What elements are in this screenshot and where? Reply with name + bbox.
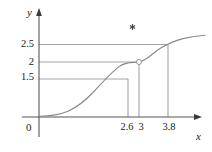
x-tick-label-3: 3 <box>131 121 151 132</box>
x-tick-label-3-8: 3.8 <box>154 121 184 132</box>
graph-figure: y x 0 2.5 2 1.5 2.6 3 3.8 <box>0 0 212 152</box>
y-axis-arrow-icon <box>36 8 42 16</box>
y-tick-label-2: 2 <box>6 56 34 67</box>
sigmoid-curve <box>39 35 205 116</box>
open-circle-point-marker <box>137 60 142 65</box>
origin-label: 0 <box>26 121 32 133</box>
asterisk-mark-icon <box>130 25 134 30</box>
y-tick-label-2-5: 2.5 <box>6 38 34 49</box>
y-axis-label: y <box>27 6 32 18</box>
x-axis-label: x <box>196 130 201 142</box>
x-axis-arrow-icon <box>194 114 202 120</box>
y-tick-label-1-5: 1.5 <box>6 71 34 82</box>
